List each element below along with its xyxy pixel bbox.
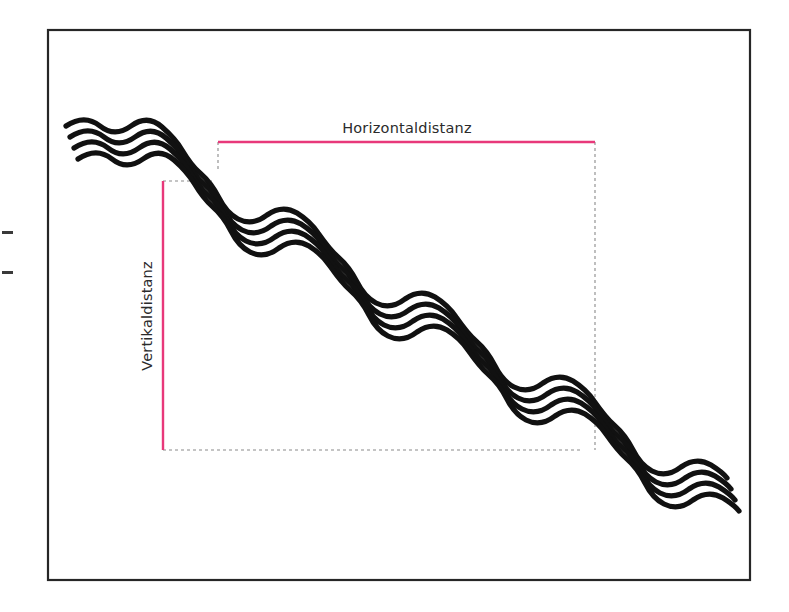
figure-root: Horizontaldistanz Vertikaldistanz [0,0,789,612]
crop-mark [2,271,13,274]
horizontal-distance-label: Horizontaldistanz [342,120,472,136]
figure-canvas: Horizontaldistanz Vertikaldistanz [0,0,789,612]
crop-mark [2,231,13,234]
vertical-distance-label: Vertikaldistanz [139,261,155,371]
